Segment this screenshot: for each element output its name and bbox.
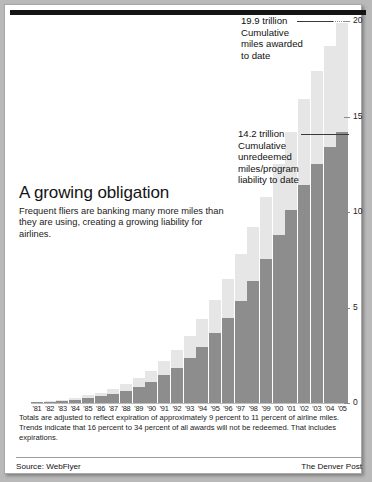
annotation-unredeemed-line2: unredeemed <box>238 151 324 163</box>
y-tick-label: 20 <box>353 15 362 25</box>
bar-unredeemed <box>145 382 157 403</box>
bar-unredeemed <box>298 185 310 403</box>
annotation-awarded: 19.9 trillion Cumulative miles awarded t… <box>241 15 337 61</box>
bar-unredeemed <box>82 398 94 403</box>
bar-unredeemed <box>311 164 323 403</box>
annotation-unredeemed: 14.2 trillion Cumulative unredeemed mile… <box>238 128 324 186</box>
bar-unredeemed <box>196 347 208 403</box>
bar-unredeemed <box>184 358 196 403</box>
source-label: Source: WebFlyer <box>16 462 81 471</box>
bar-unredeemed <box>171 368 183 403</box>
bar-unredeemed <box>222 318 234 403</box>
annotation-awarded-line1: Cumulative <box>241 27 337 39</box>
bar-unredeemed <box>324 147 336 403</box>
source-bar: Source: WebFlyer The Denver Post <box>16 462 362 475</box>
y-tick-label: 10 <box>353 206 362 216</box>
bar-unredeemed <box>247 281 259 403</box>
publication-credit: The Denver Post <box>301 462 362 471</box>
footnote-text: Totals are adjusted to reflect expiratio… <box>19 413 357 443</box>
bar-unredeemed <box>285 210 297 403</box>
annotation-unredeemed-value: 14.2 trillion <box>238 128 324 140</box>
headline-block: A growing obligation Frequent fliers are… <box>19 183 229 240</box>
bar-unredeemed <box>95 396 107 403</box>
bar-unredeemed <box>44 402 56 403</box>
annotation-unredeemed-line4: liability to date <box>238 174 324 186</box>
y-tick-dash <box>344 117 350 118</box>
bar-unredeemed <box>69 400 81 403</box>
bar-unredeemed <box>273 235 285 403</box>
y-tick-label: 15 <box>353 111 362 121</box>
annotation-unredeemed-line3: miles/program <box>238 163 324 175</box>
y-tick-label: 0 <box>353 397 358 407</box>
bar-unredeemed <box>120 391 132 403</box>
source-divider <box>16 457 362 458</box>
bar-unredeemed <box>158 375 170 403</box>
annotation-awarded-line3: to date <box>241 50 337 62</box>
bar-unredeemed <box>209 333 221 403</box>
bar-unredeemed <box>56 401 68 403</box>
annotation-awarded-value: 19.9 trillion <box>241 15 337 27</box>
infographic-page: 05101520 '81'82'83'84'85'86'87'88'89'90'… <box>0 0 372 482</box>
bar-unredeemed <box>31 402 43 403</box>
bar-unredeemed <box>260 259 272 403</box>
page-title: A growing obligation <box>19 183 229 202</box>
bar-unredeemed <box>133 387 145 403</box>
y-tick-label: 5 <box>353 302 358 312</box>
x-tick-label: '05 <box>335 404 349 413</box>
bar-unredeemed <box>235 301 247 403</box>
y-tick-dash <box>344 308 350 309</box>
annotation-unredeemed-line1: Cumulative <box>238 140 324 152</box>
headline-deck: Frequent fliers are banking many more mi… <box>19 206 229 240</box>
annotation-awarded-line2: miles awarded <box>241 38 337 50</box>
bar-unredeemed <box>336 132 348 403</box>
infographic-card: 05101520 '81'82'83'84'85'86'87'88'89'90'… <box>4 4 362 474</box>
bar-unredeemed <box>107 394 119 403</box>
y-tick-dash <box>344 212 350 213</box>
